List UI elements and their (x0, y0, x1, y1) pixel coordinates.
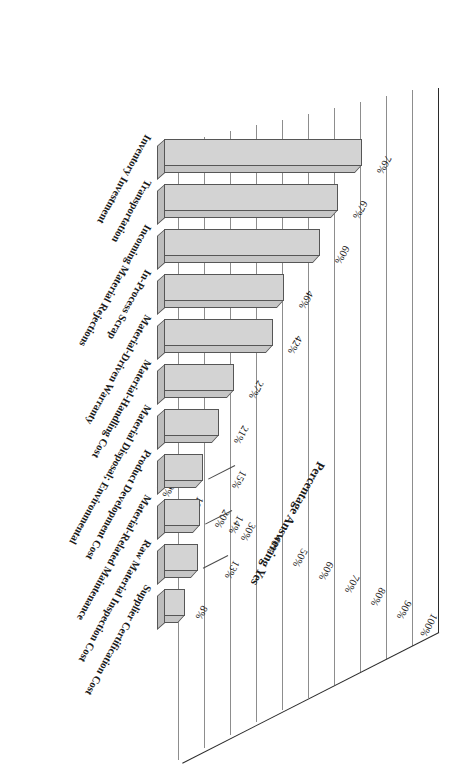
gridline (386, 96, 387, 659)
gridline (360, 102, 361, 672)
bar-top-face (157, 255, 320, 263)
bar-front-face (164, 274, 284, 301)
value-label: 42% (286, 334, 305, 356)
gridline (412, 90, 413, 646)
tick-label: 80% (369, 586, 388, 608)
bar-front-face (164, 139, 362, 166)
value-label: 21% (232, 424, 251, 446)
bar-front-face (164, 499, 200, 526)
bar-top-face (157, 165, 362, 173)
bar (164, 544, 198, 578)
category-axis-line (438, 88, 439, 633)
bar (164, 499, 200, 533)
bar-front-face (164, 184, 338, 211)
bar-front-face (164, 544, 198, 571)
bar (164, 364, 234, 398)
value-label: 8% (193, 604, 209, 622)
value-axis-line (182, 632, 439, 764)
tick-label: 90% (395, 599, 414, 621)
bar-top-face (157, 435, 219, 443)
value-label: 13% (223, 559, 242, 581)
bar (164, 319, 273, 353)
value-label: 27% (247, 379, 266, 401)
bar-front-face (164, 409, 219, 436)
bar (164, 229, 320, 263)
bar (164, 409, 219, 443)
tick-label: 70% (343, 573, 362, 595)
bar-top-face (157, 300, 284, 308)
value-label: 46% (297, 289, 316, 311)
value-axis-title: Percentage Answering Yes (247, 459, 328, 588)
bar-front-face (164, 454, 203, 481)
bar-front-face (164, 589, 185, 616)
value-label: 60% (333, 244, 352, 266)
tick-label: 60% (317, 560, 336, 582)
leader-line (203, 555, 228, 569)
tick-label: 50% (291, 547, 310, 569)
bar (164, 184, 338, 218)
bar (164, 454, 203, 488)
tick-label: 100% (418, 612, 440, 639)
value-label: 15% (230, 469, 249, 491)
value-label: 76% (375, 154, 394, 176)
bar (164, 274, 284, 308)
bar-top-face (157, 390, 234, 398)
bar-front-face (164, 319, 273, 346)
bar-front-face (164, 229, 320, 256)
value-label: 67% (351, 199, 370, 221)
gridline (230, 131, 231, 735)
bar-top-face (157, 210, 338, 218)
bar-top-face (157, 345, 273, 353)
leader-line (208, 465, 235, 480)
bar (164, 589, 185, 623)
bar (164, 139, 362, 173)
bar-front-face (164, 364, 234, 391)
